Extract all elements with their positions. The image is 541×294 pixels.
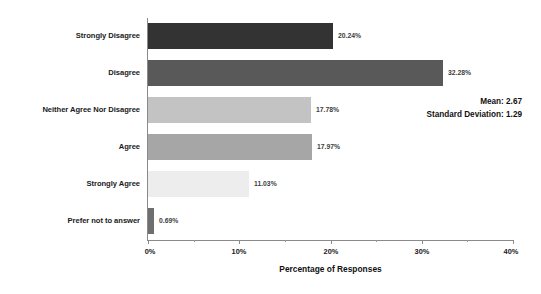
x-tick-10	[239, 240, 240, 244]
category-label-neither-agree-nor-disagree: Neither Agree Nor Disagree	[0, 105, 147, 115]
category-label-strongly-disagree: Strongly Disagree	[0, 31, 147, 41]
standard-deviation-text: Standard Deviation: 1.29	[426, 109, 522, 122]
x-tick-0	[148, 240, 149, 244]
bar-value-strongly-agree: 11.03%	[254, 180, 277, 188]
bar-value-strongly-disagree: 20.24%	[338, 32, 361, 40]
summary-statistics: Mean: 2.67 Standard Deviation: 1.29	[426, 96, 522, 121]
bar-value-agree: 17.97%	[317, 143, 340, 151]
x-tick-label-0: 0%	[145, 247, 156, 256]
bar-value-prefer-not-to-answer: 0.69%	[159, 217, 178, 225]
x-tick-label-20: 20%	[324, 247, 339, 256]
x-minor-tick-25	[376, 240, 377, 242]
category-label-prefer-not-to-answer: Prefer not to answer	[0, 216, 147, 226]
bar-disagree	[148, 60, 443, 86]
bar-neither-agree-nor-disagree	[148, 97, 311, 123]
x-tick-30	[422, 240, 423, 244]
bar-agree	[148, 134, 312, 160]
x-tick-40	[513, 240, 514, 244]
x-minor-tick-5	[194, 240, 195, 242]
category-axis-labels: Strongly Disagree Disagree Neither Agree…	[0, 0, 147, 294]
x-tick-label-30: 30%	[415, 247, 430, 256]
bar-strongly-disagree	[148, 23, 333, 49]
category-label-disagree: Disagree	[0, 68, 147, 78]
plot-area: 20.24% 32.28% 17.78% 17.97% 11.03% 0.69%…	[147, 0, 541, 294]
survey-bar-chart: Strongly Disagree Disagree Neither Agree…	[0, 0, 541, 294]
x-tick-label-10: 10%	[232, 247, 247, 256]
mean-text: Mean: 2.67	[426, 96, 522, 109]
bar-prefer-not-to-answer	[148, 208, 154, 234]
x-minor-tick-15	[285, 240, 286, 242]
bar-strongly-agree	[148, 171, 249, 197]
category-label-strongly-agree: Strongly Agree	[0, 179, 147, 189]
x-tick-20	[331, 240, 332, 244]
category-label-agree: Agree	[0, 142, 147, 152]
y-axis-line	[147, 18, 148, 240]
x-tick-label-40: 40%	[504, 247, 519, 256]
x-minor-tick-35	[467, 240, 468, 242]
bar-value-neither-agree-nor-disagree: 17.78%	[316, 106, 339, 114]
x-axis-title: Percentage of Responses	[147, 264, 514, 274]
bar-value-disagree: 32.28%	[448, 69, 471, 77]
